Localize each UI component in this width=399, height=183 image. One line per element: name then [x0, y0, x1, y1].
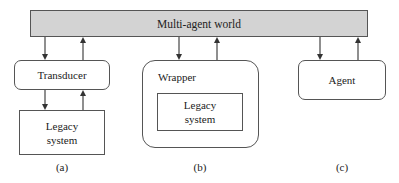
connector-arrows	[0, 0, 399, 183]
